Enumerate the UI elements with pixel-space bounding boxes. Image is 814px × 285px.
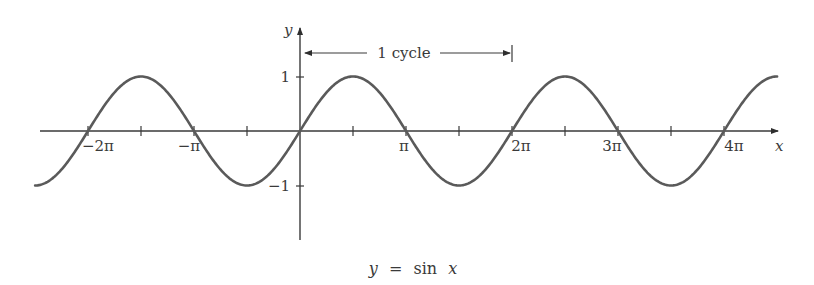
x-tick-label: 2π <box>511 137 531 155</box>
x-axis-label: x <box>775 137 784 155</box>
y-axis-label: y <box>283 21 293 39</box>
y-tick-label: 1 <box>280 68 290 86</box>
x-tick-label: 3π <box>602 137 622 155</box>
cycle-annotation: 1 cycle <box>305 44 512 62</box>
caption-arg: x <box>448 259 457 278</box>
x-tick-label: 4π <box>724 137 744 155</box>
x-tick-label: −π <box>178 137 201 155</box>
y-tick-label: −1 <box>268 177 290 195</box>
figure-caption: y = sin x <box>368 259 457 278</box>
x-tick-label: −2π <box>82 137 114 155</box>
caption-lhs: y <box>368 259 379 278</box>
caption-fn: sin <box>413 259 437 278</box>
sine-graph: x y −2π −π π 2π 3π 4π 1 −1 1 cycle y = s… <box>0 0 814 285</box>
x-tick-label: π <box>399 137 409 155</box>
cycle-label: 1 cycle <box>377 44 430 62</box>
caption-eq: = <box>389 259 402 278</box>
